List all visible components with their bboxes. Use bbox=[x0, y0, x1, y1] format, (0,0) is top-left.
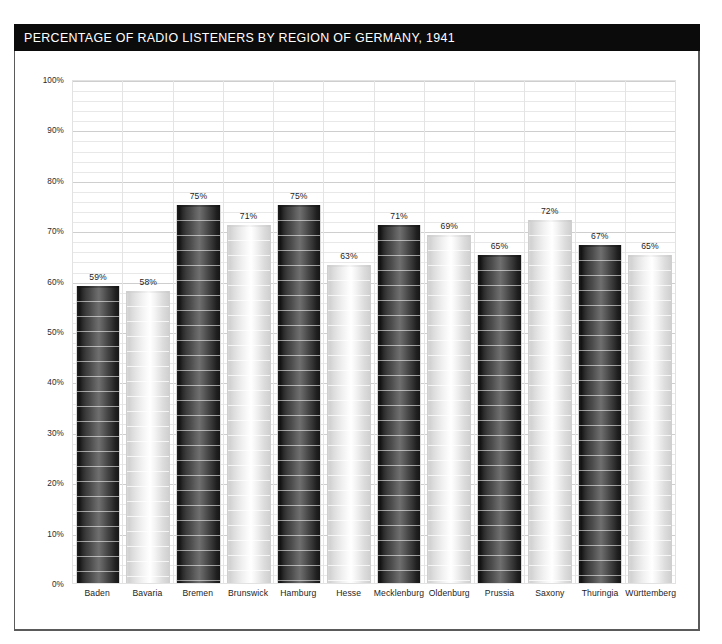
bar-value-label: 65% bbox=[625, 241, 675, 251]
bar[interactable] bbox=[76, 286, 120, 583]
bar-value-label: 59% bbox=[73, 272, 123, 282]
bar-value-label: 75% bbox=[173, 191, 223, 201]
x-axis-tick-label: Mecklenburg bbox=[374, 588, 424, 608]
bar-value-label: 58% bbox=[123, 277, 173, 287]
bar-slot: 75% bbox=[173, 81, 223, 583]
bar-value-label: 63% bbox=[324, 251, 374, 261]
bar-slot: 59% bbox=[73, 81, 123, 583]
bar-cap bbox=[127, 291, 169, 293]
x-axis-tick-label: Bavaria bbox=[122, 588, 172, 608]
chart-title-bar: PERCENTAGE OF RADIO LISTENERS BY REGION … bbox=[14, 24, 700, 51]
bar[interactable] bbox=[227, 225, 271, 583]
x-axis-tick-label: Thuringia bbox=[575, 588, 625, 608]
y-axis-tick-label: 80% bbox=[47, 176, 64, 185]
bar[interactable] bbox=[628, 255, 672, 583]
y-axis-tick-label: 30% bbox=[47, 428, 64, 437]
bar[interactable] bbox=[327, 265, 371, 583]
bar-value-label: 65% bbox=[474, 241, 524, 251]
x-axis-tick-label: Baden bbox=[72, 588, 122, 608]
bar[interactable] bbox=[277, 205, 321, 583]
y-axis-tick-label: 20% bbox=[47, 479, 64, 488]
chart-page: PERCENTAGE OF RADIO LISTENERS BY REGION … bbox=[0, 0, 722, 644]
bar-value-label: 67% bbox=[575, 231, 625, 241]
y-axis-tick-label: 0% bbox=[52, 580, 64, 589]
x-axis-tick-label: Oldenburg bbox=[424, 588, 474, 608]
bar[interactable] bbox=[377, 225, 421, 583]
x-axis-tick-label: Saxony bbox=[525, 588, 575, 608]
bar[interactable] bbox=[528, 220, 572, 583]
bar-cap bbox=[428, 235, 470, 237]
bar[interactable] bbox=[578, 245, 622, 583]
y-axis-tick-label: 70% bbox=[47, 227, 64, 236]
bar-cap bbox=[228, 225, 270, 227]
bar-cap bbox=[378, 225, 420, 227]
page-title: PERCENTAGE OF RADIO LISTENERS BY REGION … bbox=[14, 30, 455, 45]
bar-series: 59%58%75%71%75%63%71%69%65%72%67%65% bbox=[73, 81, 675, 583]
x-axis-tick-label: Brunswick bbox=[223, 588, 273, 608]
bar-slot: 69% bbox=[424, 81, 474, 583]
bar-cap bbox=[177, 205, 219, 207]
bar-cap bbox=[328, 265, 370, 267]
y-axis-tick-label: 40% bbox=[47, 378, 64, 387]
bar-cap bbox=[77, 286, 119, 288]
bar-slot: 65% bbox=[625, 81, 675, 583]
bar[interactable] bbox=[477, 255, 521, 583]
bar-value-label: 75% bbox=[274, 191, 324, 201]
bar[interactable] bbox=[176, 205, 220, 583]
bar-slot: 67% bbox=[575, 81, 625, 583]
bar-slot: 71% bbox=[224, 81, 274, 583]
bar-value-label: 71% bbox=[224, 211, 274, 221]
bar-value-label: 72% bbox=[525, 206, 575, 216]
bar-slot: 72% bbox=[525, 81, 575, 583]
bar[interactable] bbox=[126, 291, 170, 583]
bar-cap bbox=[278, 205, 320, 207]
x-axis-tick-label: Bremen bbox=[173, 588, 223, 608]
bar-cap bbox=[629, 255, 671, 257]
bar-cap bbox=[529, 220, 571, 222]
plot-area: 59%58%75%71%75%63%71%69%65%72%67%65% bbox=[72, 80, 676, 584]
bar-slot: 63% bbox=[324, 81, 374, 583]
bar-value-label: 71% bbox=[374, 211, 424, 221]
x-axis-tick-label: Hesse bbox=[323, 588, 373, 608]
bar-slot: 65% bbox=[474, 81, 524, 583]
bar-value-label: 69% bbox=[424, 221, 474, 231]
bar-slot: 75% bbox=[274, 81, 324, 583]
bar[interactable] bbox=[427, 235, 471, 583]
bar-cap bbox=[579, 245, 621, 247]
bar-chart: 100%90%80%70%60%50%40%30%20%10%0% 59%58%… bbox=[14, 51, 700, 631]
y-axis-tick-label: 10% bbox=[47, 529, 64, 538]
x-axis-tick-label: Hamburg bbox=[273, 588, 323, 608]
y-axis: 100%90%80%70%60%50%40%30%20%10%0% bbox=[14, 80, 70, 584]
y-axis-tick-label: 50% bbox=[47, 328, 64, 337]
y-axis-tick-label: 100% bbox=[43, 76, 64, 85]
bar-slot: 58% bbox=[123, 81, 173, 583]
y-axis-tick-label: 90% bbox=[47, 126, 64, 135]
bar-cap bbox=[478, 255, 520, 257]
y-axis-tick-label: 60% bbox=[47, 277, 64, 286]
bar-slot: 71% bbox=[374, 81, 424, 583]
x-axis-tick-label: Prussia bbox=[474, 588, 524, 608]
x-axis: BadenBavariaBremenBrunswickHamburgHesseM… bbox=[72, 588, 676, 608]
x-axis-tick-label: Württemberg bbox=[625, 588, 676, 608]
